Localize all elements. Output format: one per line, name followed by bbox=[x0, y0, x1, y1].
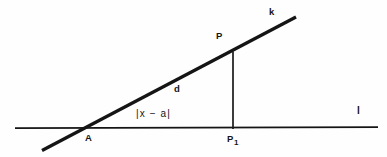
geometry-figure: k l P A d P1 |x − a| bbox=[0, 0, 387, 157]
line-l-label: l bbox=[357, 106, 360, 116]
point-p1-label: P1 bbox=[227, 134, 238, 144]
point-p1-subscript: 1 bbox=[234, 138, 239, 147]
point-p-label: P bbox=[216, 31, 223, 41]
distance-expression-label: |x − a| bbox=[136, 109, 171, 119]
figure-canvas bbox=[0, 0, 387, 157]
line-l bbox=[15, 127, 378, 128]
point-a-label: A bbox=[85, 133, 92, 143]
line-k-label: k bbox=[269, 7, 274, 17]
segment-d-label: d bbox=[174, 84, 180, 94]
line-k bbox=[42, 17, 296, 151]
point-p1-base: P bbox=[227, 133, 234, 144]
